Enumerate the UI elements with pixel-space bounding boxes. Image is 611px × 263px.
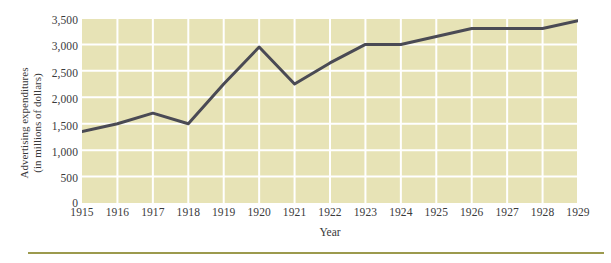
y-tick-label: 2,000 — [34, 93, 78, 105]
y-tick-label: 1,500 — [34, 120, 78, 132]
x-tick-label: 1929 — [556, 206, 600, 218]
gridlines — [82, 18, 578, 203]
y-axis-tick-labels: 3,500 3,000 2,500 2,000 1,500 1,000 500 … — [32, 0, 78, 263]
y-tick-label: 1,000 — [34, 146, 78, 158]
y-tick-label: 3,500 — [34, 14, 78, 26]
x-axis-tick-labels: 1915191619171918191919201921192219231924… — [82, 206, 578, 222]
y-axis-title-line1: Advertising expenditures — [18, 68, 30, 179]
chart-figure: Advertising expenditures (in millions of… — [0, 0, 611, 263]
chart-canvas — [82, 18, 578, 203]
x-axis-title: Year — [82, 226, 578, 238]
bottom-rule — [28, 252, 604, 254]
plot-area — [82, 18, 578, 203]
y-tick-label: 3,000 — [34, 40, 78, 52]
y-tick-label: 2,500 — [34, 67, 78, 79]
y-tick-label: 500 — [34, 172, 78, 184]
